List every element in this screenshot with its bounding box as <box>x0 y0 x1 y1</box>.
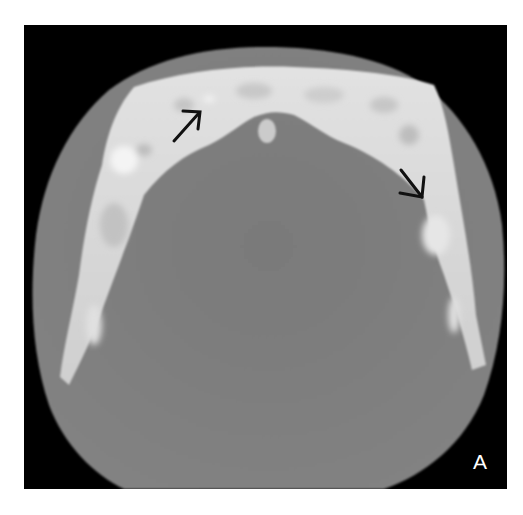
tooth <box>258 119 276 143</box>
panel-label: A <box>473 451 487 472</box>
ct-image-panel: A <box>24 25 507 489</box>
ct-scan-image <box>24 25 507 489</box>
